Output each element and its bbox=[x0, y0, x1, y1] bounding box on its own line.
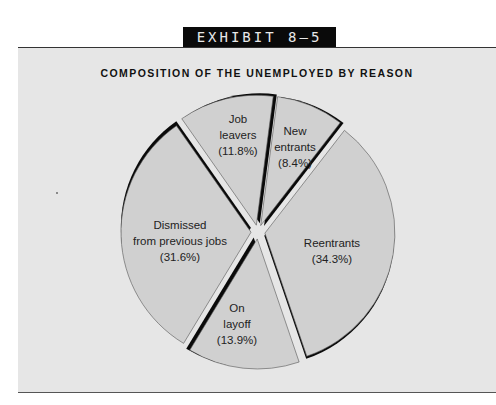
pie-chart: Jobleavers(11.8%)Newentrants(8.4%)Reentr… bbox=[0, 0, 496, 405]
